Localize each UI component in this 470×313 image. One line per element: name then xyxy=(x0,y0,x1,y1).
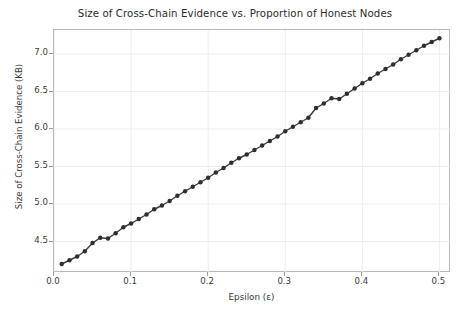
data-point-marker xyxy=(183,189,187,193)
plot-area xyxy=(53,29,450,272)
data-point-marker xyxy=(214,170,218,174)
data-point-marker xyxy=(121,225,125,229)
data-point-marker xyxy=(167,199,171,203)
y-tick-label: 5.5 xyxy=(0,160,55,170)
y-tick-label: 6.0 xyxy=(0,122,55,132)
data-point-marker xyxy=(337,97,341,101)
x-tick-label: 0.0 xyxy=(33,276,73,286)
data-point-marker xyxy=(437,36,441,40)
data-point-marker xyxy=(352,86,356,90)
data-point-marker xyxy=(106,236,110,240)
x-tick-label: 0.3 xyxy=(264,276,304,286)
data-point-marker xyxy=(275,134,279,138)
data-point-marker xyxy=(298,120,302,124)
data-point-marker xyxy=(198,180,202,184)
x-tick-mark xyxy=(361,272,362,276)
x-tick-label: 0.1 xyxy=(110,276,150,286)
data-point-marker xyxy=(368,77,372,81)
data-point-marker xyxy=(406,53,410,57)
chart-figure: Size of Cross-Chain Evidence vs. Proport… xyxy=(0,0,470,313)
y-tick-label: 4.5 xyxy=(0,235,55,245)
y-tick-mark xyxy=(49,53,53,54)
x-tick-label: 0.2 xyxy=(187,276,227,286)
x-tick-label: 0.5 xyxy=(418,276,458,286)
y-tick-label: 6.5 xyxy=(0,85,55,95)
data-point-marker xyxy=(268,139,272,143)
y-tick-mark xyxy=(49,203,53,204)
data-point-marker xyxy=(152,207,156,211)
data-point-marker xyxy=(391,62,395,66)
data-point-marker xyxy=(175,194,179,198)
x-tick-mark xyxy=(53,272,54,276)
data-point-marker xyxy=(376,71,380,75)
data-point-marker xyxy=(314,106,318,110)
x-tick-mark xyxy=(130,272,131,276)
data-point-marker xyxy=(360,81,364,85)
data-point-marker xyxy=(144,212,148,216)
y-tick-mark xyxy=(49,241,53,242)
data-point-marker xyxy=(329,96,333,100)
x-tick-mark xyxy=(207,272,208,276)
data-point-marker xyxy=(283,129,287,133)
data-point-marker xyxy=(306,116,310,120)
chart-title: Size of Cross-Chain Evidence vs. Proport… xyxy=(0,8,470,19)
x-tick-mark xyxy=(284,272,285,276)
y-tick-mark xyxy=(49,91,53,92)
data-point-marker xyxy=(98,236,102,240)
data-point-marker xyxy=(160,203,164,207)
data-point-marker xyxy=(237,156,241,160)
data-point-marker xyxy=(252,148,256,152)
x-axis-label: Epsilon (ε) xyxy=(53,292,450,302)
y-tick-mark xyxy=(49,128,53,129)
y-tick-label: 7.0 xyxy=(0,47,55,57)
data-line xyxy=(62,38,440,264)
data-point-marker xyxy=(422,44,426,48)
data-point-markers xyxy=(60,36,442,266)
data-point-marker xyxy=(322,101,326,105)
data-point-marker xyxy=(206,176,210,180)
data-point-marker xyxy=(229,161,233,165)
x-tick-mark xyxy=(438,272,439,276)
data-point-marker xyxy=(137,217,141,221)
data-point-marker xyxy=(90,241,94,245)
data-point-marker xyxy=(83,249,87,253)
data-point-marker xyxy=(113,231,117,235)
y-tick-label: 5.0 xyxy=(0,197,55,207)
data-point-marker xyxy=(129,221,133,225)
data-point-marker xyxy=(191,185,195,189)
data-point-marker xyxy=(221,166,225,170)
data-point-marker xyxy=(245,152,249,156)
x-tick-label: 0.4 xyxy=(341,276,381,286)
data-point-marker xyxy=(383,67,387,71)
plot-svg xyxy=(54,30,451,273)
data-point-marker xyxy=(414,48,418,52)
data-point-marker xyxy=(60,262,64,266)
data-point-marker xyxy=(67,258,71,262)
data-point-marker xyxy=(399,57,403,61)
data-point-marker xyxy=(291,125,295,129)
data-point-marker xyxy=(260,143,264,147)
data-point-marker xyxy=(430,40,434,44)
data-point-marker xyxy=(75,254,79,258)
data-point-marker xyxy=(345,92,349,96)
y-tick-mark xyxy=(49,166,53,167)
